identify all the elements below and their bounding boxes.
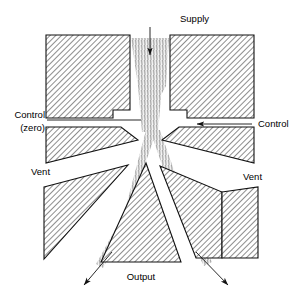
diagram-canvas: Supply Control (zero) Control Vent Vent … xyxy=(0,0,302,295)
label-vent-right: Vent xyxy=(243,171,262,182)
jet-throat xyxy=(138,86,162,132)
label-supply: Supply xyxy=(180,13,209,24)
upper-left-block xyxy=(46,35,130,118)
fluidic-amplifier-svg: Supply Control (zero) Control Vent Vent … xyxy=(0,0,302,295)
label-control-zero-line1: Control xyxy=(14,109,45,120)
label-control-zero-line2: (zero) xyxy=(20,122,45,133)
label-control-right: Control xyxy=(258,118,289,129)
label-vent-left: Vent xyxy=(31,166,50,177)
upper-right-block xyxy=(170,35,254,118)
lower-right-outer-block xyxy=(222,187,258,258)
label-output: Output xyxy=(127,271,156,282)
